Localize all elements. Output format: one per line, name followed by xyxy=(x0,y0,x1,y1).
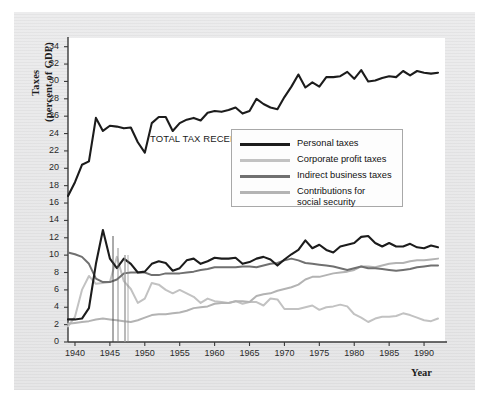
legend-label: Contributions for social security xyxy=(297,185,365,208)
y-tick-label: 18 xyxy=(43,180,59,190)
x-tick-label: 1950 xyxy=(129,348,161,358)
legend-swatch xyxy=(240,159,290,162)
y-tick-label: 20 xyxy=(43,162,59,172)
figure-page: Taxes (percent of GDP) Year TOTAL TAX RE… xyxy=(0,0,489,403)
legend-swatch xyxy=(240,143,290,146)
y-tick-label: 16 xyxy=(43,197,59,207)
y-tick-label: 2 xyxy=(43,319,59,329)
legend-items: Personal taxesCorporate profit taxesIndi… xyxy=(232,130,402,213)
y-tick-label: 30 xyxy=(43,75,59,85)
legend-swatch xyxy=(240,175,290,178)
x-tick-label: 1985 xyxy=(373,348,405,358)
y-tick-label: 32 xyxy=(43,58,59,68)
legend-item: Contributions for social security xyxy=(232,185,402,213)
y-tick-label: 12 xyxy=(43,232,59,242)
y-tick-label: 6 xyxy=(43,284,59,294)
x-tick-label: 1965 xyxy=(234,348,266,358)
y-tick-label: 22 xyxy=(43,145,59,155)
y-tick-label: 28 xyxy=(43,93,59,103)
legend-item: Personal taxes xyxy=(232,137,402,153)
legend-item: Indirect business taxes xyxy=(232,169,402,185)
legend-label: Personal taxes xyxy=(297,137,359,149)
y-tick-label: 0 xyxy=(43,336,59,346)
legend-label: Indirect business taxes xyxy=(297,169,392,181)
x-tick-label: 1980 xyxy=(338,348,370,358)
x-tick-label: 1970 xyxy=(268,348,300,358)
x-tick-label: 1955 xyxy=(164,348,196,358)
y-tick-label: 4 xyxy=(43,301,59,311)
y-tick-label: 14 xyxy=(43,214,59,224)
y-tick-label: 24 xyxy=(43,128,59,138)
legend-item: Corporate profit taxes xyxy=(232,153,402,169)
y-tick-label: 26 xyxy=(43,110,59,120)
x-tick-label: 1960 xyxy=(199,348,231,358)
y-tick-label: 10 xyxy=(43,249,59,259)
x-tick-label: 1945 xyxy=(94,348,126,358)
legend-swatch xyxy=(240,191,290,194)
x-tick-label: 1975 xyxy=(303,348,335,358)
y-axis-label-line1: Taxes xyxy=(30,70,41,96)
x-tick-label: 1990 xyxy=(408,348,440,358)
x-axis-label: Year xyxy=(411,367,432,378)
legend-label: Corporate profit taxes xyxy=(297,153,386,165)
y-tick-label: 8 xyxy=(43,267,59,277)
x-tick-label: 1940 xyxy=(59,348,91,358)
y-tick-label: 34 xyxy=(43,41,59,51)
chart-legend: Personal taxesCorporate profit taxesIndi… xyxy=(231,129,403,207)
